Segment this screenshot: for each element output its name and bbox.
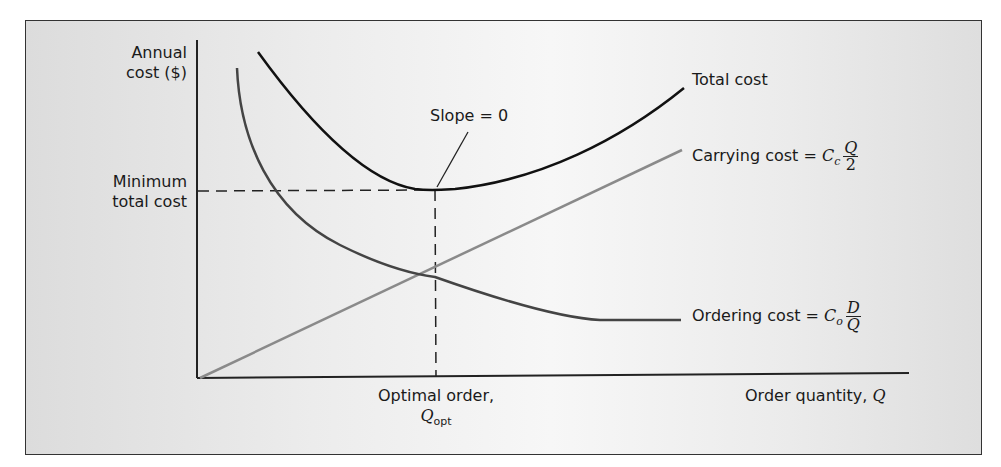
min-cost-label-line1: Minimum	[70, 172, 187, 192]
x-axis-label: Order quantity, Q	[745, 386, 886, 406]
y-axis-label: Annual cost ($)	[100, 43, 187, 83]
optimal-order-label: Optimal order, Qopt	[370, 386, 502, 432]
carrying-cost-var: C	[822, 146, 834, 165]
min-cost-label-line2: total cost	[70, 192, 187, 212]
fraction-denominator: 2	[843, 157, 858, 173]
ordering-cost-sub: o	[836, 315, 843, 328]
fraction-denominator: Q	[846, 317, 861, 333]
ordering-cost-text: Ordering cost =	[692, 306, 824, 325]
x-axis-label-text: Order quantity,	[745, 386, 872, 405]
ordering-cost-fraction: DQ	[846, 300, 861, 333]
slope-pointer	[437, 132, 468, 187]
y-axis-label-line1: Annual	[100, 43, 187, 63]
ordering-cost-label: Ordering cost = CoDQ	[692, 300, 861, 333]
optimal-order-sub: opt	[434, 415, 452, 428]
x-axis-label-var: Q	[872, 386, 885, 405]
optimal-order-line1: Optimal order,	[370, 386, 502, 406]
carrying-cost-label: Carrying cost = CcQ2	[692, 140, 858, 173]
total-cost-label: Total cost	[692, 70, 768, 90]
min-cost-guide	[198, 190, 435, 191]
y-axis-label-line2: cost ($)	[100, 63, 187, 83]
optimal-order-guide	[435, 190, 436, 377]
carrying-cost-text: Carrying cost =	[692, 146, 822, 165]
carrying-cost-sub: c	[834, 155, 840, 168]
min-cost-label: Minimum total cost	[70, 172, 187, 212]
slope-label: Slope = 0	[430, 106, 508, 126]
x-axis	[197, 373, 909, 378]
optimal-order-var: Q	[420, 406, 433, 425]
ordering-cost-var: C	[824, 306, 836, 325]
carrying-cost-fraction: Q2	[843, 140, 858, 173]
